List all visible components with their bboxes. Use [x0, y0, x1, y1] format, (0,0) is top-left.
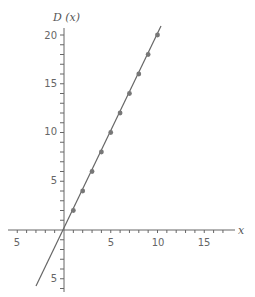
x-tick-label: 10 — [152, 237, 165, 248]
y-tick-label: 20 — [44, 30, 57, 41]
data-point — [118, 111, 123, 116]
x-tick-label: 5 — [14, 237, 20, 248]
data-point — [127, 91, 132, 96]
data-point — [146, 52, 151, 57]
y-tick-label: 15 — [44, 78, 57, 89]
data-point — [108, 130, 113, 135]
chart: 5 5 10 15 20 15 10 5 5 D (x) x — [0, 0, 255, 297]
y-axis-title: D (x) — [52, 11, 80, 24]
data-point — [136, 72, 141, 77]
data-point — [80, 189, 85, 194]
x-axis-title: x — [238, 224, 245, 237]
data-point — [155, 33, 160, 38]
x-tick-label: 5 — [108, 237, 114, 248]
x-tick-label: 15 — [198, 237, 211, 248]
regression-line — [36, 26, 161, 286]
y-axis-ticks — [60, 35, 64, 289]
y-tick-label: 5 — [51, 273, 57, 284]
data-point — [71, 208, 76, 213]
data-point — [90, 169, 95, 174]
data-point — [99, 150, 104, 155]
y-tick-label: 5 — [51, 175, 57, 186]
y-tick-label: 10 — [44, 126, 57, 137]
